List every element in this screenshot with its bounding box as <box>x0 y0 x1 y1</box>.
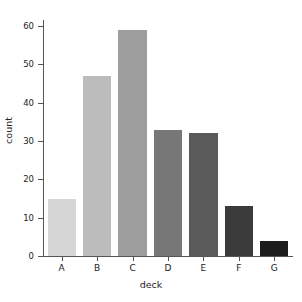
x-tick-label-b: B <box>94 264 100 273</box>
bar-d <box>154 130 182 257</box>
x-tick-label-c: C <box>129 264 135 273</box>
x-tick-label-a: A <box>59 264 65 273</box>
bars-container <box>44 26 292 256</box>
y-tick-label: 50 <box>0 60 34 69</box>
x-tick-mark <box>62 257 63 261</box>
y-tick-label: 10 <box>0 214 34 223</box>
x-tick-mark <box>97 257 98 261</box>
y-tick-mark <box>38 26 43 27</box>
y-tick-mark <box>38 256 43 257</box>
x-tick-mark <box>168 257 169 261</box>
y-tick-mark <box>38 103 43 104</box>
y-axis-label: count <box>3 96 14 166</box>
y-tick-label: 60 <box>0 22 34 31</box>
bar-g <box>260 241 288 256</box>
x-tick-mark <box>133 257 134 261</box>
x-tick-label-e: E <box>201 264 207 273</box>
x-tick-label-g: G <box>271 264 278 273</box>
y-tick-mark <box>38 141 43 142</box>
x-axis-label: deck <box>0 279 302 290</box>
x-tick-label-d: D <box>165 264 172 273</box>
bar-c <box>118 30 146 256</box>
y-tick-mark <box>38 179 43 180</box>
bar-chart-figure: 0102030405060 ABCDEFG deck count <box>0 0 302 302</box>
y-tick-mark <box>38 64 43 65</box>
bar-a <box>48 199 76 257</box>
x-tick-mark <box>274 257 275 261</box>
bar-f <box>225 206 253 256</box>
x-tick-mark <box>203 257 204 261</box>
x-tick-mark <box>239 257 240 261</box>
y-tick-mark <box>38 218 43 219</box>
y-tick-label: 20 <box>0 175 34 184</box>
bar-b <box>83 76 111 256</box>
y-tick-label: 0 <box>0 252 34 261</box>
x-tick-label-f: F <box>236 264 241 273</box>
bar-e <box>189 133 217 256</box>
